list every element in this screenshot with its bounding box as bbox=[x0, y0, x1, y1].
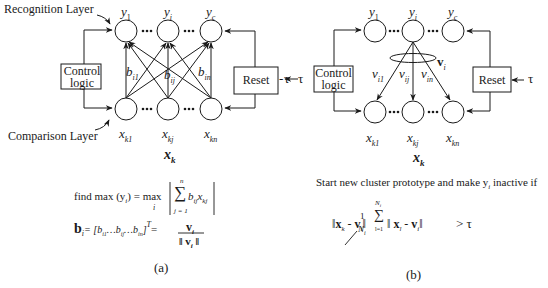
node-yc-b bbox=[442, 20, 464, 42]
label-vi1: vi1 bbox=[372, 66, 384, 84]
label-xk1-b: xk1 bbox=[366, 130, 379, 148]
label-yi-a: yi bbox=[164, 4, 172, 22]
formula-frac-Ni: Ni bbox=[358, 224, 366, 236]
node-xkn-b bbox=[442, 101, 464, 123]
reset-label-b: Reset bbox=[473, 73, 511, 88]
label-yc-b: yc bbox=[448, 4, 457, 22]
art-network-diagram bbox=[0, 0, 548, 288]
control-logic-label-b: Control logic bbox=[314, 67, 353, 91]
label-vij: vij bbox=[399, 66, 409, 84]
formula-sum-b-bottom: l=1 bbox=[375, 226, 383, 232]
label-bin: bin bbox=[198, 64, 211, 82]
label-bij: bij bbox=[164, 67, 175, 85]
comparison-layer-label: Comparison Layer bbox=[8, 129, 98, 144]
node-yi-a bbox=[157, 20, 179, 42]
formula-frac-1: 1 bbox=[360, 211, 365, 221]
formula-max-index: i bbox=[153, 203, 155, 212]
node-xkn-a bbox=[200, 98, 222, 120]
label-xkn-b: xkn bbox=[446, 130, 459, 148]
vector-xk-b: xk bbox=[413, 150, 425, 168]
node-y1-a bbox=[115, 20, 137, 42]
label-xkn-a: xkn bbox=[204, 126, 217, 144]
tau-label-a-right: τ bbox=[284, 71, 289, 87]
formula-frac-num: vi bbox=[186, 220, 194, 236]
label-vin: vin bbox=[421, 66, 433, 84]
label-bi1: bi1 bbox=[126, 64, 139, 82]
formula-sum-b-top: Ni bbox=[375, 199, 381, 208]
formula-find-max: find max (yi) = max bbox=[74, 190, 162, 205]
node-xk1-b bbox=[364, 101, 386, 123]
node-yc-a bbox=[200, 20, 222, 42]
label-yc-a: yc bbox=[206, 4, 215, 22]
caption-b: (b) bbox=[406, 267, 421, 283]
formula-sum-sign: ∑ bbox=[174, 183, 186, 203]
control-label-line2: logic bbox=[62, 77, 102, 89]
tau-label-right-b: τ bbox=[528, 71, 533, 87]
formula-frac-den: ‖ vi ‖ bbox=[179, 235, 199, 250]
formula-sum-body: bijxkj bbox=[188, 190, 207, 205]
label-y1-a: y1 bbox=[121, 4, 131, 22]
formula-sum-bottom: j = 1 bbox=[174, 207, 188, 215]
tau-label-a: - bbox=[279, 71, 283, 87]
caption-a: (a) bbox=[154, 260, 168, 276]
node-y1-b bbox=[364, 20, 386, 42]
control-logic-label-a: Control logic bbox=[62, 65, 102, 89]
node-xk1-a bbox=[115, 98, 137, 120]
node-xkj-a bbox=[157, 98, 179, 120]
label-xkj-b: xkj bbox=[407, 130, 419, 148]
formula-sum-b: ∑ bbox=[374, 207, 384, 223]
condition-text-b: Start new cluster prototype and make yi … bbox=[316, 176, 537, 191]
label-xk1-a: xk1 bbox=[119, 126, 132, 144]
formula-gt-tau: > τ bbox=[456, 216, 472, 232]
label-y1-b: y1 bbox=[369, 4, 379, 22]
control-label-b-line2: logic bbox=[314, 79, 353, 91]
label-prototype-vi: vi bbox=[437, 54, 446, 72]
label-yi-b: yi bbox=[409, 4, 417, 22]
tau-label-left-b: τ bbox=[298, 71, 303, 87]
vector-xk-a: xk bbox=[164, 147, 176, 165]
recognition-layer-label: Recognition Layer bbox=[4, 2, 94, 17]
formula-norm-right: ‖ xl - vi‖ bbox=[387, 217, 423, 233]
node-yi-b bbox=[402, 20, 424, 42]
node-xkj-b bbox=[402, 101, 424, 123]
reset-label-a: Reset bbox=[234, 73, 278, 88]
label-xkj-a: xkj bbox=[162, 126, 174, 144]
formula-bi-def: bi= [bi1…bij…bin]T= bbox=[74, 220, 157, 238]
